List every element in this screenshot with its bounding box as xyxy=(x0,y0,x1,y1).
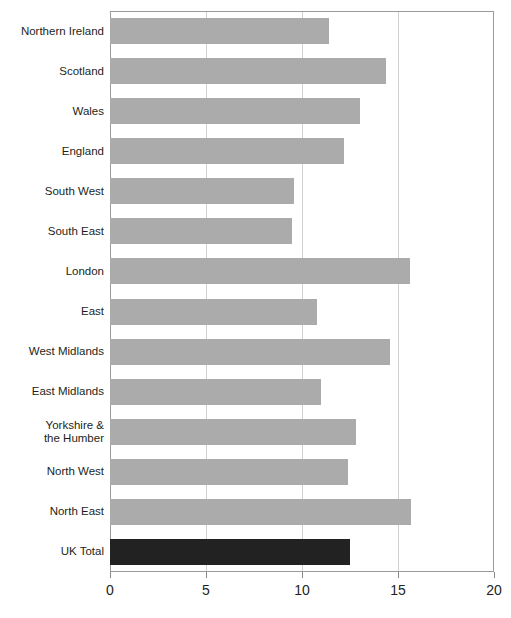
bar[interactable] xyxy=(110,178,294,204)
category-label: East Midlands xyxy=(0,385,104,398)
category-label: Northern Ireland xyxy=(0,25,104,38)
bar[interactable] xyxy=(110,138,344,164)
bar[interactable] xyxy=(110,258,410,284)
category-label: West Midlands xyxy=(0,345,104,358)
bar[interactable] xyxy=(110,539,350,565)
bars-container xyxy=(110,11,494,572)
bar[interactable] xyxy=(110,18,329,44)
category-label: North West xyxy=(0,465,104,478)
bar-chart: Northern IrelandScotlandWalesEnglandSout… xyxy=(0,0,511,618)
category-axis-labels: Northern IrelandScotlandWalesEnglandSout… xyxy=(0,11,104,572)
category-label: South West xyxy=(0,185,104,198)
bar-row xyxy=(110,539,494,565)
category-label: East xyxy=(0,305,104,318)
x-tick-label: 5 xyxy=(202,582,210,598)
bar[interactable] xyxy=(110,339,390,365)
bar[interactable] xyxy=(110,218,292,244)
bar-row xyxy=(110,218,494,244)
bar[interactable] xyxy=(110,459,348,485)
x-tick-label: 15 xyxy=(390,582,406,598)
bar-row xyxy=(110,138,494,164)
bar[interactable] xyxy=(110,499,411,525)
x-tick-mark xyxy=(110,572,111,578)
bar-row xyxy=(110,18,494,44)
bar-row xyxy=(110,58,494,84)
category-label: UK Total xyxy=(0,545,104,558)
bar-row xyxy=(110,379,494,405)
category-label: North East xyxy=(0,505,104,518)
category-label: England xyxy=(0,145,104,158)
bar[interactable] xyxy=(110,98,360,124)
category-label: South East xyxy=(0,225,104,238)
x-tick-mark xyxy=(398,572,399,578)
bar-row xyxy=(110,258,494,284)
x-tick-label: 0 xyxy=(106,582,114,598)
bar-row xyxy=(110,98,494,124)
category-label: Scotland xyxy=(0,65,104,78)
bar-row xyxy=(110,419,494,445)
bar-row xyxy=(110,299,494,325)
bar-row xyxy=(110,339,494,365)
bar[interactable] xyxy=(110,379,321,405)
x-tick-mark xyxy=(302,572,303,578)
category-label: Yorkshire & the Humber xyxy=(0,419,104,445)
bar[interactable] xyxy=(110,58,386,84)
x-tick-mark xyxy=(494,572,495,578)
bar-row xyxy=(110,499,494,525)
category-label: Wales xyxy=(0,105,104,118)
bar-row xyxy=(110,459,494,485)
bar[interactable] xyxy=(110,419,356,445)
x-tick-mark xyxy=(206,572,207,578)
bar-row xyxy=(110,178,494,204)
x-tick-label: 20 xyxy=(486,582,502,598)
x-axis: 05101520 xyxy=(110,572,494,612)
bar[interactable] xyxy=(110,299,317,325)
category-label: London xyxy=(0,265,104,278)
x-tick-label: 10 xyxy=(294,582,310,598)
